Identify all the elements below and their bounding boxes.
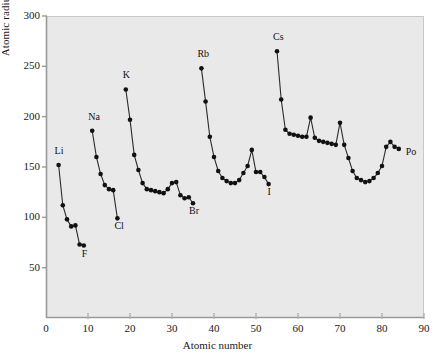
data-point	[94, 155, 99, 160]
data-point	[300, 135, 305, 140]
data-point	[103, 183, 108, 188]
data-point	[161, 191, 166, 196]
data-point	[308, 115, 313, 120]
data-point	[199, 66, 204, 71]
data-point	[313, 136, 318, 141]
data-point	[153, 189, 158, 194]
data-point	[182, 196, 187, 201]
data-point	[90, 128, 95, 133]
element-label-na: Na	[88, 112, 100, 122]
data-point	[334, 143, 339, 148]
data-point	[380, 164, 385, 169]
data-point	[136, 168, 141, 173]
data-point	[145, 187, 150, 192]
data-point	[124, 87, 129, 92]
data-point	[157, 190, 162, 195]
data-point	[325, 141, 330, 146]
data-point	[233, 181, 238, 186]
element-label-po: Po	[406, 147, 417, 157]
data-point	[65, 217, 70, 222]
data-point	[397, 147, 402, 152]
data-point	[329, 142, 334, 147]
data-point	[166, 187, 171, 192]
element-label-cl: Cl	[114, 221, 123, 231]
element-label-i: I	[268, 187, 271, 197]
data-point	[296, 133, 301, 138]
element-label-br: Br	[189, 206, 199, 216]
data-point	[363, 180, 368, 185]
data-point	[229, 181, 234, 186]
data-point	[107, 187, 112, 192]
data-point	[178, 193, 183, 198]
data-point	[77, 242, 82, 247]
data-point	[237, 178, 242, 183]
data-point	[174, 180, 179, 185]
data-point	[208, 135, 213, 140]
data-point	[111, 188, 116, 193]
data-point	[388, 140, 393, 145]
data-point	[292, 132, 297, 137]
data-point	[376, 171, 381, 176]
data-point	[287, 131, 292, 136]
data-point	[359, 178, 364, 183]
data-point	[69, 224, 74, 229]
data-point	[342, 143, 347, 148]
element-label-li: Li	[55, 146, 64, 156]
data-point	[279, 97, 284, 102]
data-point	[56, 163, 61, 168]
data-point	[73, 223, 78, 228]
data-point	[98, 172, 103, 177]
data-point	[304, 135, 309, 140]
data-point	[258, 170, 263, 175]
data-point	[245, 164, 250, 169]
data-point	[321, 140, 326, 145]
data-point	[187, 195, 192, 200]
data-point	[132, 153, 137, 158]
data-point	[216, 169, 221, 174]
data-point	[220, 176, 225, 181]
data-point	[140, 181, 145, 186]
data-point	[371, 176, 376, 181]
data-point	[212, 155, 217, 160]
data-point	[275, 49, 280, 54]
data-point	[203, 99, 208, 104]
data-point	[317, 139, 322, 144]
element-label-cs: Cs	[273, 32, 284, 42]
data-point	[250, 148, 255, 153]
data-point	[224, 179, 229, 184]
plot-background	[46, 16, 424, 318]
data-point	[61, 203, 66, 208]
plot-area	[0, 0, 435, 362]
data-point	[262, 175, 267, 180]
data-point	[392, 145, 397, 150]
data-point	[384, 145, 389, 150]
data-point	[283, 127, 288, 132]
atomic-radius-chart: Atomic radius (pm) 50100150200250300 010…	[0, 0, 435, 362]
data-point	[338, 120, 343, 125]
data-point	[254, 170, 259, 175]
data-point	[241, 171, 246, 176]
element-label-rb: Rb	[197, 49, 209, 59]
data-point	[367, 179, 372, 184]
data-point	[149, 188, 154, 193]
element-label-k: K	[123, 70, 130, 80]
data-point	[355, 176, 360, 181]
data-point	[128, 117, 133, 122]
element-label-f: F	[82, 249, 88, 259]
data-point	[170, 181, 175, 186]
data-point	[346, 156, 351, 161]
data-point	[350, 169, 355, 174]
